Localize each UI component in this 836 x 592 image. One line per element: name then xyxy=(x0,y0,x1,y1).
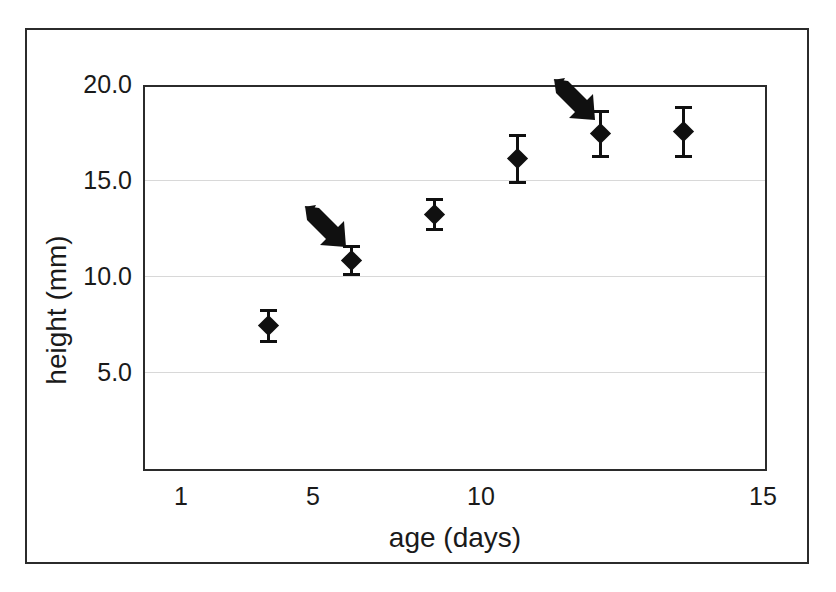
x-tick-label-5: 5 xyxy=(306,484,320,509)
gridline-5 xyxy=(145,372,765,373)
diamond-marker xyxy=(257,315,278,336)
diamond-marker xyxy=(506,148,527,169)
gridline-15 xyxy=(145,180,765,181)
error-bar-cap-lower xyxy=(426,228,443,231)
y-tick-label-5: 5.0 xyxy=(97,360,132,385)
error-bar-cap-upper xyxy=(260,309,277,312)
diamond-marker xyxy=(589,123,610,144)
data-point xyxy=(497,133,537,185)
error-bar-cap-lower xyxy=(260,340,277,343)
data-point xyxy=(331,244,371,277)
error-bar-cap-lower xyxy=(509,181,526,184)
annotation-arrow-icon xyxy=(302,203,348,249)
diamond-marker xyxy=(340,250,361,271)
error-bar-cap-upper xyxy=(675,106,692,109)
diamond-marker xyxy=(423,204,444,225)
error-bar-cap-upper xyxy=(509,134,526,137)
x-tick-label-10: 10 xyxy=(467,484,495,509)
y-tick-label-20: 20.0 xyxy=(83,72,132,97)
data-point xyxy=(663,105,703,159)
y-tick-label-15: 15.0 xyxy=(83,168,132,193)
x-tick-label-1: 1 xyxy=(174,484,188,509)
x-axis-title: age (days) xyxy=(389,522,521,554)
data-point xyxy=(248,308,288,345)
error-bar-cap-lower xyxy=(675,155,692,158)
x-tick-label-15: 15 xyxy=(749,484,777,509)
y-axis-title: height (mm) xyxy=(41,235,73,384)
gridline-10 xyxy=(145,276,765,277)
error-bar-cap-lower xyxy=(343,273,360,276)
error-bar-cap-upper xyxy=(426,198,443,201)
y-tick-label-10: 10.0 xyxy=(83,264,132,289)
data-point xyxy=(414,197,454,232)
error-bar-cap-lower xyxy=(592,155,609,158)
annotation-arrow-icon xyxy=(551,76,597,122)
diamond-marker xyxy=(672,121,693,142)
